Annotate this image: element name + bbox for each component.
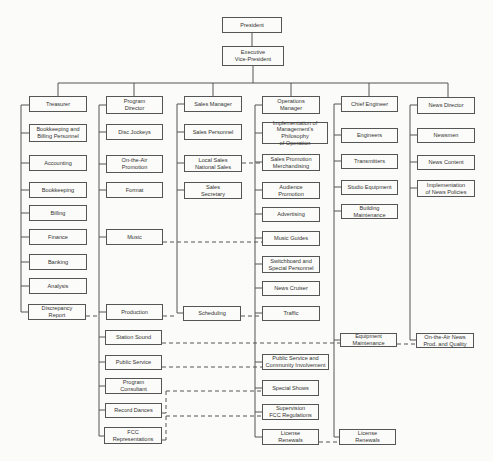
- node-station-sound: Station Sound: [105, 330, 162, 345]
- node-music-guides: Music Guides: [262, 231, 320, 246]
- node-community-involvement: Public Service and Community Involvement: [262, 354, 329, 370]
- node-program-director: Program Director: [106, 96, 163, 114]
- node-banking: Banking: [29, 254, 87, 270]
- node-finance: Finance: [29, 229, 87, 245]
- node-audience-promotion: Audience Promotion: [262, 182, 320, 199]
- node-local-national-sales: Local Sales National Sales: [184, 155, 242, 172]
- org-chart: President Executive Vice-President Treas…: [0, 0, 493, 461]
- node-president: President: [222, 17, 282, 33]
- node-accounting: Accounting: [29, 155, 87, 171]
- node-building-maintenance: Building Maintenance: [341, 204, 398, 219]
- node-disc-jockeys: Disc Jockeys: [106, 124, 163, 140]
- node-fcc-representations: FCC Representations: [104, 427, 162, 444]
- node-license-renewals-ops: License Renewals: [262, 429, 319, 445]
- node-special-shows: Special Shows: [262, 380, 319, 396]
- node-engineers: Engineers: [341, 128, 398, 143]
- node-advertising: Advertising: [262, 207, 320, 222]
- node-license-renewals-eng: License Renewals: [339, 429, 396, 445]
- node-program-consultant: Program Consultant: [105, 378, 162, 394]
- node-sales-promotion: Sales Promotion Merchandising: [262, 154, 320, 171]
- node-record-dances: Record Dances: [105, 403, 162, 418]
- node-studio-equipment: Studio Equipment: [341, 180, 398, 195]
- node-implementation-management-philosophy: Implementation of Management's Philosoph…: [262, 122, 328, 144]
- node-public-service: Public Service: [105, 355, 162, 370]
- node-on-air-promotion: On-the-Air Promotion: [106, 155, 163, 173]
- node-scheduling: Scheduling: [183, 306, 241, 321]
- node-format: Format: [106, 182, 163, 198]
- node-chief-engineer: Chief Engineer: [341, 96, 398, 112]
- node-sales-personnel: Sales Personnel: [184, 124, 242, 140]
- node-sales-manager: Sales Manager: [184, 96, 242, 112]
- node-production: Production: [106, 304, 163, 320]
- node-analysis: Analysis: [29, 278, 87, 294]
- node-equipment-maintenance: Equipment Maintenance: [340, 333, 397, 347]
- node-newsmen: Newsmen: [417, 128, 475, 143]
- node-discrepancy-report: Discrepancy Report: [28, 304, 86, 320]
- node-operations-manager: Operations Manager: [262, 96, 320, 114]
- node-news-director: News Director: [417, 97, 475, 114]
- node-on-air-news-quality: On-the-Air News Prod. and Quality: [416, 333, 474, 348]
- node-bookkeeping: Bookkeeping: [29, 182, 87, 198]
- node-executive-vice-president: Executive Vice-President: [222, 46, 284, 66]
- node-treasurer: Treasurer: [29, 96, 87, 112]
- node-transmitters: Transmitters: [341, 154, 398, 169]
- node-news-content: News Content: [417, 155, 475, 170]
- node-sales-secretary: Sales Secretary: [184, 182, 242, 199]
- node-news-cruiser: News Cruiser: [262, 281, 320, 296]
- node-billing: Billing: [29, 205, 87, 221]
- node-supervision-fcc: Supervision FCC Regulations: [262, 404, 319, 420]
- node-news-policies: Implementation of News Policies: [417, 180, 475, 197]
- node-bookkeeping-billing-personnel: Bookkeeping and Billing Personnel: [29, 124, 87, 142]
- node-traffic: Traffic: [262, 306, 320, 321]
- node-switchboard: Switchboard and Special Personnel: [262, 256, 320, 273]
- node-music: Music: [106, 229, 163, 245]
